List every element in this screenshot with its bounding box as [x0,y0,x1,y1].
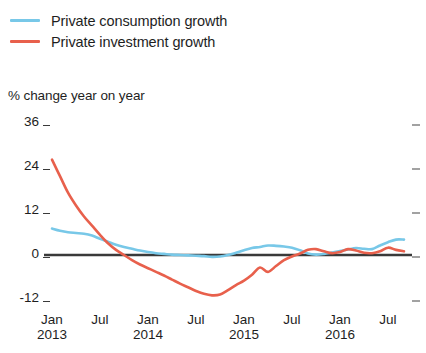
x-axis-tick-month: Jul [358,312,418,327]
x-axis-tick-year: 2016 [310,327,370,342]
chart-figure: Private consumption growth Private inves… [0,0,426,353]
x-axis-tick-Jul: Jul [358,312,418,327]
x-axis-tick-year: 2015 [214,327,274,342]
x-axis-tick-labels: Jan2013JulJan2014JulJan2015JulJan2016Jul [0,0,426,353]
x-axis-tick-year: 2014 [118,327,178,342]
x-axis-tick-year: 2013 [22,327,82,342]
